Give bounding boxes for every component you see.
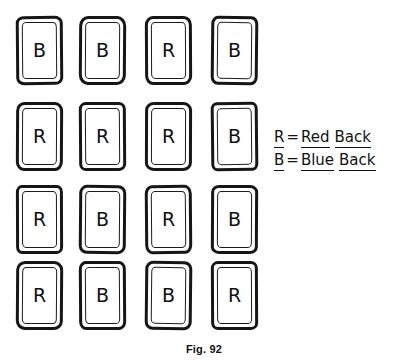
legend-line-blue: B=BlueBack xyxy=(274,149,406,172)
card-letter: R xyxy=(16,102,63,171)
card[interactable]: B xyxy=(79,185,126,254)
legend-word-back: Back xyxy=(339,151,375,171)
legend-line-red: R=RedBack xyxy=(274,126,406,149)
card[interactable]: R xyxy=(145,16,192,85)
card-letter: R xyxy=(145,185,192,254)
card-letter: R xyxy=(145,102,192,171)
card[interactable]: B xyxy=(79,16,126,85)
card-grid: B B R B xyxy=(15,16,263,332)
card-row: B B R B xyxy=(15,16,263,86)
card[interactable]: R xyxy=(145,185,192,254)
card[interactable]: B xyxy=(211,16,258,85)
card[interactable]: R xyxy=(16,102,63,171)
card-letter: B xyxy=(211,16,258,85)
legend-word-blue: Blue xyxy=(301,151,334,171)
legend-key-b: B xyxy=(274,151,284,171)
card-letter: B xyxy=(211,185,258,254)
legend-word-red: Red xyxy=(301,128,330,148)
figure-92: B B R B xyxy=(0,0,408,363)
card[interactable]: R xyxy=(16,185,63,254)
card-row: R B B R xyxy=(15,261,263,331)
card[interactable]: R xyxy=(16,261,63,330)
card[interactable]: R xyxy=(145,102,192,171)
card-row: R B R B xyxy=(15,185,263,255)
card[interactable]: B xyxy=(211,102,258,171)
card-letter: B xyxy=(79,261,126,330)
legend-equals: = xyxy=(284,151,301,169)
card[interactable]: B xyxy=(145,261,192,330)
card-letter: B xyxy=(211,102,258,171)
legend-word-back: Back xyxy=(335,128,371,148)
card-letter: R xyxy=(145,16,192,85)
card-row: R R R B xyxy=(15,102,263,172)
card[interactable]: B xyxy=(211,185,258,254)
card[interactable]: B xyxy=(16,16,63,85)
card-letter: B xyxy=(79,16,126,85)
legend-key-r: R xyxy=(274,128,284,148)
legend: R=RedBack B=BlueBack xyxy=(274,126,406,172)
card-letter: R xyxy=(211,261,258,330)
card[interactable]: B xyxy=(79,261,126,330)
card-letter: R xyxy=(16,185,63,254)
card[interactable]: R xyxy=(79,102,126,171)
card-letter: B xyxy=(16,16,63,85)
figure-caption-text: Fig. 92 xyxy=(186,343,222,355)
card-letter: B xyxy=(145,261,192,330)
card[interactable]: R xyxy=(211,261,258,330)
card-letter: B xyxy=(79,185,126,254)
card-letter: R xyxy=(16,261,63,330)
figure-caption: Fig. 92 xyxy=(0,339,408,357)
legend-equals: = xyxy=(284,128,301,146)
card-letter: R xyxy=(79,102,126,171)
